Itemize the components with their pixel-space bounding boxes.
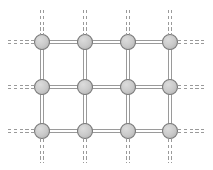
dangling-bond-top-col2 — [126, 10, 129, 34]
lattice-diagram-canvas — [0, 0, 213, 170]
node-layer — [35, 35, 178, 139]
dangling-bond-top-col0 — [40, 10, 43, 34]
lattice-figure — [0, 0, 213, 170]
node-row1-col0 — [35, 80, 50, 95]
dangling-bond-bottom-col1 — [83, 139, 86, 163]
node-row1-col3 — [163, 80, 178, 95]
dangling-bond-right-row2 — [178, 129, 205, 132]
dangling-bond-right-row0 — [178, 40, 205, 43]
node-row0-col0 — [35, 35, 50, 50]
node-row2-col1 — [78, 124, 93, 139]
dangling-bond-left-row1 — [8, 85, 34, 88]
dangling-bond-bottom-col0 — [40, 139, 43, 163]
dangling-bond-top-col3 — [168, 10, 171, 34]
dangling-bond-left-row0 — [8, 40, 34, 43]
node-row2-col0 — [35, 124, 50, 139]
node-row0-col1 — [78, 35, 93, 50]
dangling-bond-top-col1 — [83, 10, 86, 34]
dangling-bond-left-row2 — [8, 129, 34, 132]
dangling-bond-bottom-col2 — [126, 139, 129, 163]
node-row0-col3 — [163, 35, 178, 50]
node-row0-col2 — [121, 35, 136, 50]
node-row1-col2 — [121, 80, 136, 95]
node-row2-col3 — [163, 124, 178, 139]
solid-bond-layer — [40, 40, 171, 132]
dangling-bond-bottom-col3 — [168, 139, 171, 163]
dangling-bond-right-row1 — [178, 85, 205, 88]
node-row1-col1 — [78, 80, 93, 95]
node-row2-col2 — [121, 124, 136, 139]
